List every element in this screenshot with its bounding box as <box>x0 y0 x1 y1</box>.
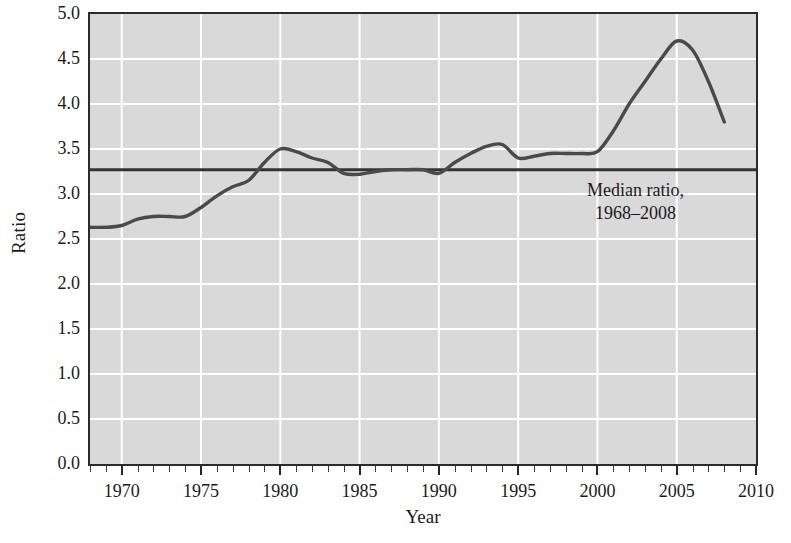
x-tick-mark-minor <box>328 466 329 472</box>
x-tick-mark-minor <box>138 466 139 472</box>
gridlines <box>90 14 756 464</box>
y-tick-label: 3.5 <box>36 139 80 157</box>
x-tick-label: 1995 <box>483 482 553 500</box>
x-tick-mark-minor <box>693 466 694 472</box>
x-tick-mark-minor <box>90 466 91 472</box>
median-ratio-annotation: Median ratio, 1968–2008 <box>545 179 725 225</box>
x-tick-mark-minor <box>661 466 662 472</box>
x-tick-mark-major <box>200 466 202 475</box>
x-tick-mark-minor <box>249 466 250 472</box>
x-tick-mark-minor <box>344 466 345 472</box>
x-tick-label: 1975 <box>166 482 236 500</box>
x-tick-mark-minor <box>375 466 376 472</box>
x-tick-mark-minor <box>185 466 186 472</box>
x-tick-mark-major <box>755 466 757 475</box>
median-annotation-line2: 1968–2008 <box>545 202 725 225</box>
y-tick-label: 4.0 <box>36 94 80 112</box>
x-tick-label: 1980 <box>245 482 315 500</box>
x-tick-mark-minor <box>264 466 265 472</box>
x-tick-mark-minor <box>217 466 218 472</box>
x-axis-title: Year <box>88 506 758 528</box>
x-tick-label: 2010 <box>721 482 791 500</box>
x-tick-mark-major <box>121 466 123 475</box>
x-tick-mark-minor <box>486 466 487 472</box>
x-tick-label: 2005 <box>642 482 712 500</box>
y-axis-title-text: Ratio <box>8 212 30 254</box>
x-tick-mark-minor <box>534 466 535 472</box>
x-tick-mark-minor <box>645 466 646 472</box>
x-tick-label: 1990 <box>404 482 474 500</box>
x-tick-mark-minor <box>233 466 234 472</box>
x-tick-mark-minor <box>613 466 614 472</box>
y-tick-label: 4.5 <box>36 49 80 67</box>
median-annotation-line1: Median ratio, <box>545 179 725 202</box>
x-tick-mark-minor <box>455 466 456 472</box>
x-tick-mark-major <box>596 466 598 475</box>
x-tick-mark-major <box>359 466 361 475</box>
y-axis-ticks: 0.00.51.01.52.02.53.03.54.04.55.0 <box>28 0 80 466</box>
x-tick-mark-minor <box>582 466 583 472</box>
y-tick-label: 0.5 <box>36 409 80 427</box>
x-tick-mark-minor <box>391 466 392 472</box>
y-tick-label: 2.0 <box>36 274 80 292</box>
x-tick-mark-minor <box>423 466 424 472</box>
x-tick-mark-minor <box>407 466 408 472</box>
x-tick-mark-minor <box>312 466 313 472</box>
x-tick-mark-minor <box>724 466 725 472</box>
plot-svg <box>90 14 756 464</box>
x-tick-label: 1985 <box>325 482 395 500</box>
x-tick-mark-major <box>517 466 519 475</box>
x-tick-mark-minor <box>708 466 709 472</box>
x-tick-mark-minor <box>153 466 154 472</box>
x-tick-mark-major <box>676 466 678 475</box>
x-tick-mark-minor <box>740 466 741 472</box>
y-tick-label: 2.5 <box>36 229 80 247</box>
y-tick-label: 5.0 <box>36 4 80 22</box>
x-tick-mark-minor <box>502 466 503 472</box>
x-tick-mark-minor <box>566 466 567 472</box>
x-tick-label: 2000 <box>562 482 632 500</box>
y-tick-label: 1.0 <box>36 364 80 382</box>
x-tick-mark-major <box>279 466 281 475</box>
x-axis-ticks: 197019751980198519901995200020052010 <box>0 466 791 510</box>
x-tick-mark-minor <box>296 466 297 472</box>
x-tick-mark-minor <box>106 466 107 472</box>
x-tick-mark-minor <box>550 466 551 472</box>
x-tick-mark-major <box>438 466 440 475</box>
x-tick-mark-minor <box>471 466 472 472</box>
x-tick-mark-minor <box>169 466 170 472</box>
x-tick-label: 1970 <box>87 482 157 500</box>
y-tick-label: 1.5 <box>36 319 80 337</box>
chart-figure: Ratio 0.00.51.01.52.02.53.03.54.04.55.0 … <box>0 0 791 543</box>
y-tick-label: 3.0 <box>36 184 80 202</box>
plot-area: Median ratio, 1968–2008 <box>88 12 758 466</box>
x-tick-mark-minor <box>629 466 630 472</box>
